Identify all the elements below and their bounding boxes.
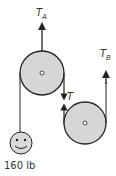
upper-pulley-axle (40, 71, 44, 75)
lower-pulley-axle (83, 121, 87, 125)
weight-label: 160 lb (4, 160, 35, 171)
weight-face-icon (10, 132, 32, 154)
tension-b-label: TB (100, 48, 111, 62)
tension-a-label: TA (36, 7, 47, 21)
tension-t-label: T (67, 91, 74, 102)
pulley-diagram: TA TB T 160 lb (0, 0, 116, 176)
